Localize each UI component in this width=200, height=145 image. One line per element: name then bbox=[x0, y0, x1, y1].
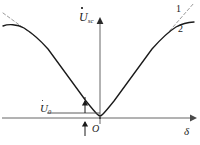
offset-voltage-label: U0 bbox=[40, 103, 51, 114]
x-axis-label: δ bbox=[184, 126, 189, 137]
y-axis-label-subscript: sc bbox=[88, 17, 94, 25]
x-axis-arrowhead bbox=[190, 115, 197, 122]
figure-plot bbox=[0, 0, 200, 145]
characteristic-curve bbox=[3, 22, 194, 116]
curve-label-dashed: 1 bbox=[176, 4, 181, 14]
x-axis-label-symbol: δ bbox=[184, 125, 189, 137]
origin-label-symbol: O bbox=[92, 123, 99, 134]
origin-label: O bbox=[92, 124, 99, 134]
origin-marker-dot bbox=[99, 117, 101, 119]
figure-container: Usc δ O U0 1 2 bbox=[0, 0, 200, 145]
curve-label-solid: 2 bbox=[178, 24, 183, 34]
y-axis-label: Usc bbox=[79, 11, 94, 23]
y-axis-arrowhead bbox=[97, 17, 104, 24]
offset-arrow-lower-head bbox=[82, 121, 88, 127]
offset-voltage-symbol: U bbox=[40, 102, 48, 114]
y-axis-label-symbol: U bbox=[79, 10, 88, 24]
asymptote-lines-group bbox=[3, 3, 194, 37]
offset-voltage-subscript: 0 bbox=[48, 108, 51, 115]
